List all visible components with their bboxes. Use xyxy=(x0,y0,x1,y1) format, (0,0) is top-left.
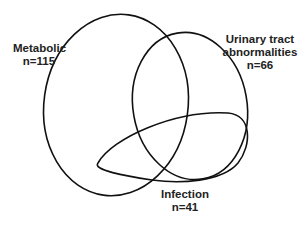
metabolic-label: Metabolic n=115 xyxy=(13,42,65,68)
urinary-tract-name-line2: abnormalities xyxy=(222,46,298,59)
infection-shape xyxy=(97,113,247,182)
metabolic-count: n=115 xyxy=(13,55,65,68)
infection-label: Infection n=41 xyxy=(155,188,215,214)
infection-count: n=41 xyxy=(155,201,215,214)
urinary-tract-label: Urinary tract abnormalities n=66 xyxy=(222,33,298,72)
infection-name: Infection xyxy=(155,188,215,201)
urinary-tract-count: n=66 xyxy=(222,59,298,72)
urinary-tract-name-line1: Urinary tract xyxy=(222,33,298,46)
metabolic-name: Metabolic xyxy=(13,42,65,55)
